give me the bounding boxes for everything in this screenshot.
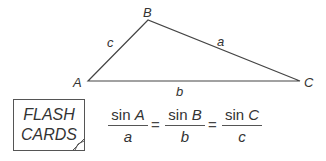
vertex-label-b: B xyxy=(143,6,152,19)
numerator-b: sin B xyxy=(165,107,205,122)
triangle-diagram xyxy=(0,0,326,100)
equals-sign-2: = xyxy=(208,117,217,132)
page-curl-icon xyxy=(73,139,85,151)
formula-term-a: sin A a xyxy=(108,107,148,144)
denominator-a: a xyxy=(108,129,148,144)
equals-sign-1: = xyxy=(151,117,160,132)
numerator-c: sin C xyxy=(222,107,262,122)
side-label-c: c xyxy=(107,36,114,49)
vertex-label-c: C xyxy=(304,76,313,89)
vertex-label-a: A xyxy=(73,76,82,89)
formula-term-b: sin B b xyxy=(165,107,205,144)
side-label-b: b xyxy=(176,85,183,98)
denominator-c: c xyxy=(222,129,262,144)
formula-term-c: sin C c xyxy=(222,107,262,144)
fraction-bar xyxy=(165,125,205,126)
fraction-bar xyxy=(108,125,148,126)
flash-cards-badge: FLASH CARDS xyxy=(13,99,85,151)
fraction-bar xyxy=(222,125,262,126)
flash-cards-line1: FLASH xyxy=(14,107,84,123)
numerator-a: sin A xyxy=(108,107,148,122)
triangle-shape xyxy=(88,20,300,81)
side-label-a: a xyxy=(217,35,224,48)
denominator-b: b xyxy=(165,129,205,144)
